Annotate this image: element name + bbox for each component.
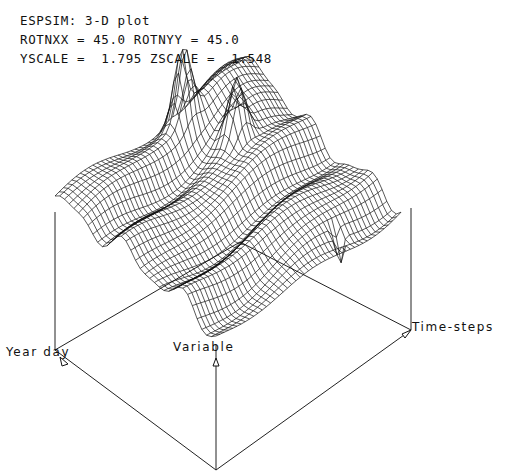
year-day-axis-label: Year day: [6, 345, 70, 359]
time-steps-axis-label: Time-steps: [412, 320, 494, 334]
variable-arrow-icon: [213, 358, 219, 366]
wireframe-surface-plot: [0, 0, 505, 474]
surface-mesh: [55, 50, 401, 337]
variable-axis-label: Variable: [173, 340, 234, 354]
time-steps-arrow-icon: [402, 330, 411, 338]
bounding-box: [55, 208, 411, 470]
axis-arrows: [60, 330, 411, 366]
